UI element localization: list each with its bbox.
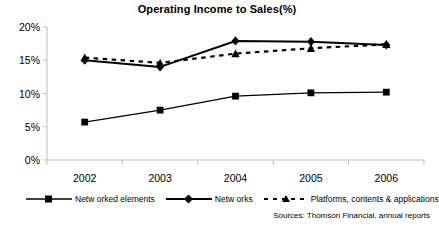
x-axis-tick-label: 2004	[224, 172, 248, 184]
chart-series-layer	[81, 36, 391, 125]
chart-series	[81, 89, 389, 126]
y-axis-tick-label: 0%	[25, 154, 40, 166]
legend-key-diamond-icon	[166, 194, 212, 204]
legend-item-networks[interactable]: Netw orks	[166, 194, 264, 204]
legend-key-triangle-icon	[264, 194, 308, 204]
legend-item-networked-elements[interactable]: Netw orked elements	[26, 194, 166, 204]
legend-item-platforms[interactable]: Platforms, contents & applications	[264, 194, 439, 204]
y-axis-tick-label: 20%	[19, 21, 40, 33]
chart-legend: Netw orked elements Netw orks	[0, 194, 434, 212]
legend-label-networked-elements: Netw orked elements	[75, 194, 155, 204]
y-axis-ticks: 0%5%10%15%20%	[19, 21, 47, 166]
legend-label-platforms: Platforms, contents & applications	[311, 194, 439, 204]
x-axis-tick-label: 2005	[299, 172, 323, 184]
y-axis-tick-label: 5%	[25, 121, 40, 133]
y-axis-tick-label: 15%	[19, 54, 40, 66]
x-axis-tick-label: 2006	[375, 172, 399, 184]
chart-source-note: Sources: Thomson Financial, annual repor…	[273, 211, 430, 220]
x-axis-ticks: 20022003200420052006	[47, 160, 424, 184]
x-axis-tick-label: 2002	[73, 172, 97, 184]
legend-key-square-icon	[26, 194, 72, 204]
y-axis-tick-label: 10%	[19, 88, 40, 100]
legend-label-networks: Netw orks	[215, 194, 253, 204]
x-axis-tick-label: 2003	[148, 172, 172, 184]
legend-row: Netw orked elements Netw orks	[26, 194, 439, 204]
